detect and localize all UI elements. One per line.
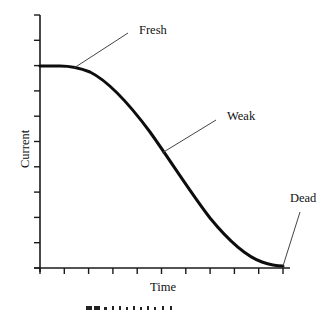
x-axis-ticks [40,268,283,274]
x-axis [34,268,290,274]
y-axis [34,15,40,272]
discharge-chart: Fresh Weak Dead Time Current [0,0,331,310]
fresh-leader-line [74,33,128,68]
weak-label: Weak [227,109,256,123]
caption-cropped [86,306,172,310]
dead-leader-line [283,212,300,266]
discharge-curve [40,66,283,266]
x-axis-label: Time [150,280,176,294]
y-axis-ticks [34,15,40,268]
weak-leader-line [162,120,216,153]
fresh-label: Fresh [139,23,168,37]
dead-label: Dead [290,191,317,205]
y-axis-label: Current [18,129,32,168]
